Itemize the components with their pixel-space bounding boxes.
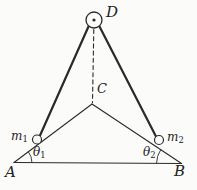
string-left — [40, 27, 89, 136]
mass2-circle — [155, 136, 164, 145]
label-C: C — [97, 82, 107, 95]
physics-diagram: D C A B m1 m2 θ1 θ2 — [0, 0, 197, 190]
label-theta1: θ1 — [33, 146, 46, 158]
label-m2: m2 — [167, 131, 184, 143]
string-right — [100, 27, 157, 137]
mass1-circle — [33, 135, 42, 144]
angle-arc-theta2 — [157, 150, 161, 164]
label-A: A — [5, 165, 16, 180]
label-D: D — [106, 5, 118, 20]
label-B: B — [174, 164, 185, 179]
angle-arc-theta1 — [28, 152, 32, 163]
label-m1: m1 — [11, 130, 28, 142]
pulley-axle-dot — [92, 18, 95, 21]
label-theta2: θ2 — [143, 146, 156, 158]
dashed-line-DC — [93, 30, 94, 103]
